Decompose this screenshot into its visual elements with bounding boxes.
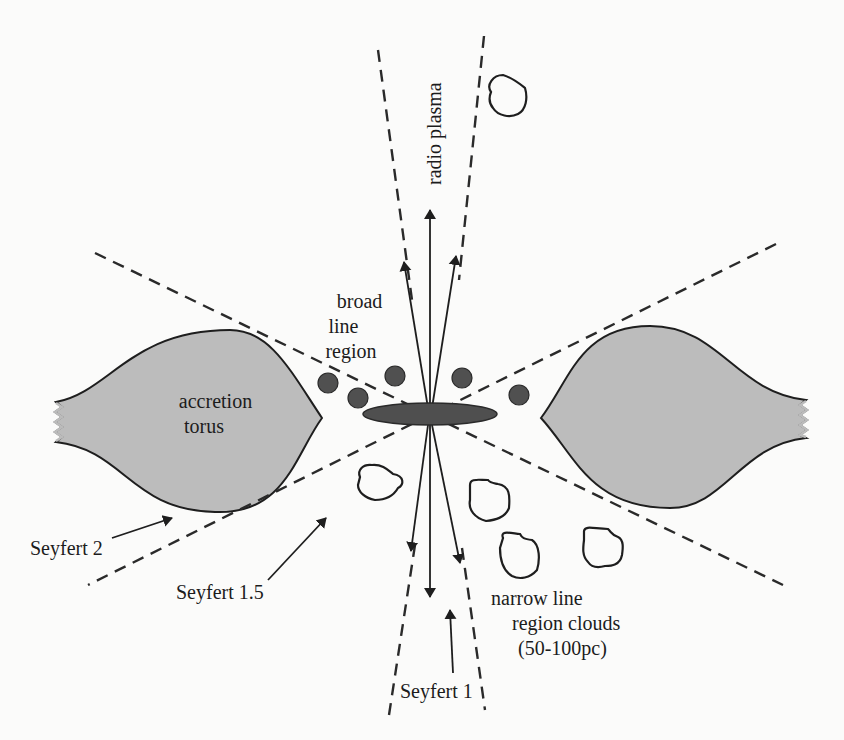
jet-arrow-down-right xyxy=(432,425,460,563)
seyfert-1-label: Seyfert 1 xyxy=(400,680,473,703)
broad-line-region-line2: line xyxy=(329,315,359,337)
accretion-torus-right xyxy=(541,326,807,508)
narrow-line-region-line2: region clouds xyxy=(512,612,621,635)
broad-line-region-line3: region xyxy=(325,340,376,363)
jet-cone-left-upper xyxy=(378,50,412,300)
broad-line-cloud xyxy=(509,385,529,405)
broad-line-cloud xyxy=(385,366,405,386)
narrow-line-cloud xyxy=(470,480,510,521)
accretion-disk xyxy=(363,403,497,425)
narrow-line-cloud xyxy=(583,528,623,568)
radio-plasma-label: radio plasma xyxy=(423,82,446,185)
broad-line-cloud xyxy=(452,368,472,388)
seyfert-1-5-label: Seyfert 1.5 xyxy=(176,581,264,604)
jet-arrow-down-left xyxy=(411,425,428,551)
seyfert-1-5-arrow xyxy=(268,518,326,580)
seyfert-2-arrow xyxy=(112,518,172,538)
jet-cone-right-upper xyxy=(459,36,484,280)
narrow-line-region-line3: (50-100pc) xyxy=(518,637,607,660)
narrow-line-cloud xyxy=(358,465,402,500)
narrow-line-region-label: narrow line region clouds (50-100pc) xyxy=(491,587,625,660)
broad-line-region-label: broad line region xyxy=(325,290,387,363)
narrow-line-cloud xyxy=(500,533,539,578)
narrow-line-region-line1: narrow line xyxy=(491,587,583,609)
accretion-torus-line1: accretion xyxy=(179,390,252,412)
broad-line-cloud xyxy=(348,388,368,408)
broad-line-region-line1: broad xyxy=(337,290,383,312)
jet-arrow-up-left xyxy=(404,262,428,408)
seyfert-1-arrow xyxy=(450,610,453,673)
accretion-torus-line2: torus xyxy=(184,415,224,437)
narrow-line-cloud xyxy=(489,75,526,116)
broad-line-cloud xyxy=(318,373,338,393)
jet-arrow-up-right xyxy=(432,256,456,408)
seyfert-2-label: Seyfert 2 xyxy=(30,537,103,560)
agn-unified-model-diagram: radio plasma broad line region accretion… xyxy=(0,0,844,740)
narrow-line-clouds xyxy=(358,75,623,578)
broad-line-clouds xyxy=(318,366,529,408)
